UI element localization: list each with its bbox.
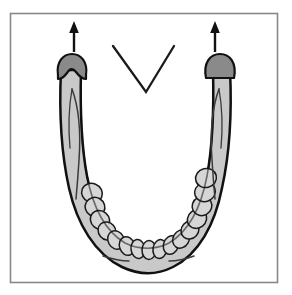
figure-canvas: Mandible superior view with condylar mov… — [0, 0, 292, 295]
figure-frame — [11, 14, 278, 283]
mandible-illustration — [0, 0, 292, 295]
right-condyle — [205, 54, 234, 78]
